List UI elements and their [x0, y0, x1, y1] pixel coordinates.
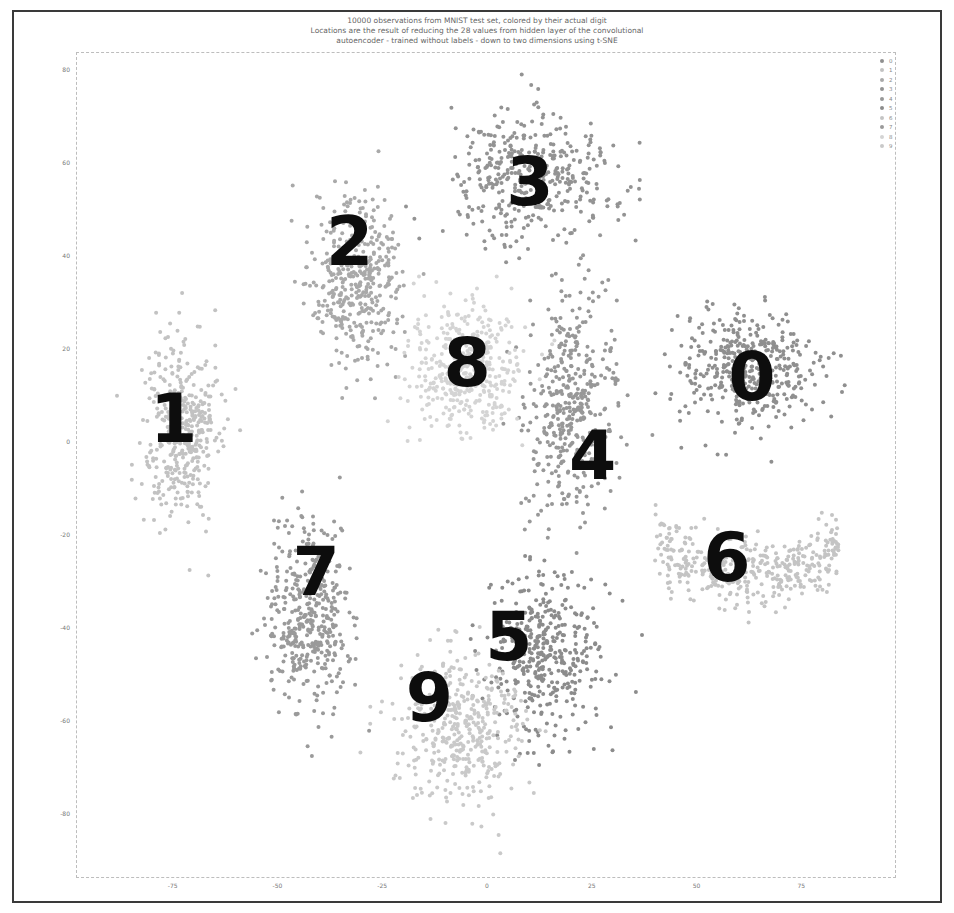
legend-marker-icon [880, 144, 884, 148]
legend-marker-icon [880, 135, 884, 139]
x-tick-label: -25 [367, 882, 397, 889]
legend: 0123456789 [880, 56, 893, 151]
legend-item: 2 [880, 75, 893, 85]
series-digit-7 [250, 476, 371, 758]
legend-marker-icon [880, 68, 884, 72]
cluster-annotation-2: 2 [326, 208, 371, 276]
legend-label: 9 [889, 143, 893, 149]
y-tick-label: -40 [46, 624, 70, 631]
x-tick-label: 0 [472, 882, 502, 889]
cluster-annotation-4: 4 [569, 422, 614, 490]
cluster-annotation-8: 8 [443, 329, 488, 397]
legend-label: 5 [889, 105, 893, 111]
cluster-annotation-9: 9 [406, 664, 451, 732]
legend-label: 8 [889, 134, 893, 140]
cluster-annotation-0: 0 [728, 343, 773, 411]
legend-marker-icon [880, 106, 884, 110]
legend-marker-icon [880, 78, 884, 82]
legend-label: 6 [889, 115, 893, 121]
x-tick-label: 25 [577, 882, 607, 889]
series-digit-4 [501, 233, 654, 555]
x-tick-label: -50 [263, 882, 293, 889]
legend-item: 8 [880, 132, 893, 142]
x-tick-label: 50 [682, 882, 712, 889]
legend-marker-icon [880, 125, 884, 129]
cluster-annotation-1: 1 [150, 385, 195, 453]
y-tick-label: 0 [46, 438, 70, 445]
y-tick-label: 60 [46, 159, 70, 166]
cluster-annotation-5: 5 [485, 603, 530, 671]
legend-item: 9 [880, 142, 893, 152]
cluster-annotation-6: 6 [703, 524, 748, 592]
legend-item: 4 [880, 94, 893, 104]
scatter-plot [0, 0, 954, 913]
legend-label: 1 [889, 67, 893, 73]
legend-item: 6 [880, 113, 893, 123]
legend-label: 4 [889, 96, 893, 102]
y-tick-label: -20 [46, 531, 70, 538]
y-tick-label: 20 [46, 345, 70, 352]
y-tick-label: -60 [46, 717, 70, 724]
legend-marker-icon [880, 87, 884, 91]
legend-label: 0 [889, 58, 893, 64]
legend-label: 3 [889, 86, 893, 92]
cluster-annotation-3: 3 [506, 148, 551, 216]
legend-item: 3 [880, 85, 893, 95]
legend-marker-icon [880, 116, 884, 120]
y-tick-label: 40 [46, 252, 70, 259]
legend-marker-icon [880, 97, 884, 101]
cluster-annotation-7: 7 [293, 538, 338, 606]
legend-label: 2 [889, 77, 893, 83]
x-tick-label: -75 [158, 882, 188, 889]
y-tick-label: -80 [46, 810, 70, 817]
legend-item: 7 [880, 123, 893, 133]
x-tick-label: 75 [786, 882, 816, 889]
legend-item: 5 [880, 104, 893, 114]
legend-item: 1 [880, 66, 893, 76]
legend-item: 0 [880, 56, 893, 66]
legend-marker-icon [880, 59, 884, 63]
y-tick-label: 80 [46, 66, 70, 73]
legend-label: 7 [889, 124, 893, 130]
